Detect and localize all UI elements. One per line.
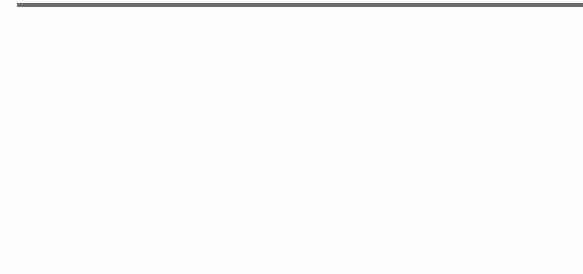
top-rule-line <box>17 3 583 7</box>
